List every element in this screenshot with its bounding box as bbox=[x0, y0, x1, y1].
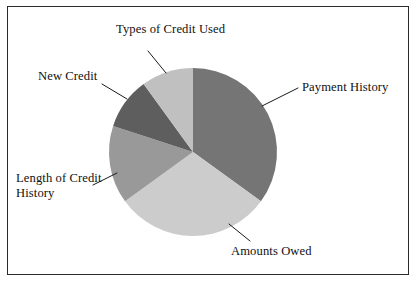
pie-label-new-credit: New Credit bbox=[38, 69, 97, 84]
leader-line-payment-history bbox=[262, 88, 298, 106]
pie-slices bbox=[109, 68, 277, 236]
pie-label-amounts-owed: Amounts Owed bbox=[231, 244, 312, 259]
leader-line-types-of-credit-used bbox=[148, 51, 166, 73]
leader-line-new-credit bbox=[102, 84, 127, 99]
pie-label-types-of-credit-used: Types of Credit Used bbox=[116, 22, 236, 37]
leader-line-amounts-owed bbox=[229, 224, 250, 241]
pie-label-payment-history: Payment History bbox=[302, 80, 389, 95]
pie-chart-canvas bbox=[0, 0, 417, 283]
pie-chart-figure: Types of Credit Used New Credit Length o… bbox=[0, 0, 417, 283]
pie-label-length-of-credit-history: Length of Credit History bbox=[16, 171, 126, 200]
